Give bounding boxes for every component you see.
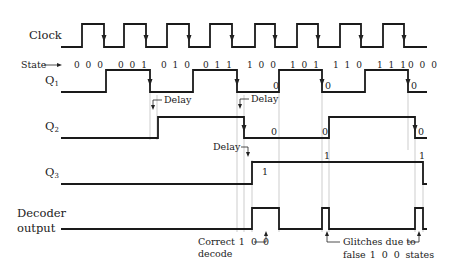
state-value: 0 0 0 [408, 60, 438, 70]
state-arrow-icon [44, 63, 62, 67]
q1-waveform [61, 70, 427, 92]
value-zero: 0 [325, 80, 331, 91]
down-arrow-icon [187, 35, 192, 42]
state-value: 1 0 1 [290, 60, 320, 70]
down-arrow-icon [406, 79, 411, 86]
down-arrow-icon [144, 35, 149, 42]
glitch-label-line2: false1 0 0states [343, 249, 434, 260]
decoder-label-line1: Decoder [17, 206, 67, 220]
glitch-label: Glitches due to [343, 236, 416, 247]
decoder-label-line2: output [17, 221, 56, 235]
correct-decode-annotation: Correct1 0 0 decode [198, 231, 271, 259]
value-zero: 0 [273, 80, 279, 91]
value-one: 1 [419, 150, 425, 161]
state-value: 0 1 1 [203, 60, 233, 70]
down-arrow-icon [320, 79, 325, 86]
delay-label: Delay [164, 94, 192, 105]
down-arrow-icon [273, 35, 278, 42]
state-value: 1 1 0 [333, 60, 363, 70]
down-arrow-icon [230, 35, 235, 42]
decode-label: decode [198, 248, 233, 259]
signal-edge-arrows [148, 79, 418, 132]
delay-label: Delay [213, 141, 241, 152]
value-zero: 0 [418, 126, 424, 137]
state-value: 1 1 1 [377, 60, 407, 70]
value-one: 1 [324, 150, 330, 161]
timing-diagram: Clock State Q1 Q2 Q3 Decoder output 0 0 … [0, 0, 449, 272]
down-arrow-icon [148, 79, 153, 86]
state-value: 0 1 0 [161, 60, 191, 70]
down-arrow-icon [102, 35, 107, 42]
down-arrow-icon [402, 35, 407, 42]
state-value: 0 0 0 [74, 60, 104, 70]
q2-label: Q2 [45, 119, 59, 134]
value-zero: 0 [271, 126, 277, 137]
state-value: 1 0 0 [247, 60, 277, 70]
glitch-annotation: Glitches due to false1 0 0states [325, 231, 434, 260]
q1-label: Q1 [45, 73, 59, 88]
state-value: 0 0 1 [118, 60, 148, 70]
state-values: 0 0 0 0 0 1 0 1 0 0 1 1 1 0 0 1 0 1 1 1 … [74, 60, 438, 70]
down-arrow-icon [316, 35, 321, 42]
value-one: 1 [262, 166, 268, 177]
clock-label: Clock [29, 28, 63, 42]
clock-waveform [61, 24, 427, 47]
down-arrow-icon [242, 125, 247, 132]
clock-edge-arrows [102, 35, 407, 42]
value-zero: 0 [322, 126, 328, 137]
value-zero: 0 [411, 80, 417, 91]
down-arrow-icon [359, 35, 364, 42]
correct-label: Correct1 0 0 [198, 236, 271, 247]
down-arrow-icon [413, 125, 418, 132]
down-arrow-icon [235, 79, 240, 86]
delay-label: Delay [251, 93, 279, 104]
q3-label: Q3 [45, 165, 59, 180]
state-label: State [21, 59, 47, 70]
delay-annotation-q3-rise: Delay [213, 141, 250, 157]
